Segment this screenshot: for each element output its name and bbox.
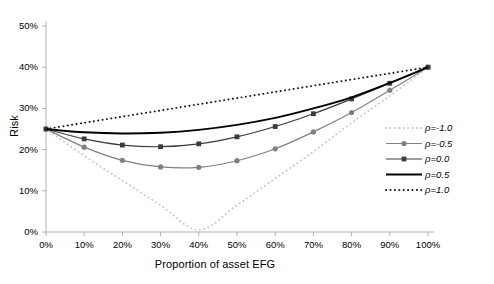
legend-marker bbox=[402, 157, 407, 162]
series-line bbox=[46, 67, 428, 133]
data-point-marker bbox=[196, 141, 201, 146]
data-point-marker bbox=[311, 129, 316, 134]
legend-entry bbox=[386, 141, 422, 146]
x-tick-label: 100% bbox=[408, 239, 448, 250]
series-line bbox=[44, 65, 431, 149]
data-point-marker bbox=[273, 124, 278, 129]
data-point-marker bbox=[273, 146, 278, 151]
series-line bbox=[46, 67, 428, 129]
y-tick-label: 10% bbox=[4, 185, 38, 196]
legend-label: ρ=0.5 bbox=[425, 169, 449, 180]
data-point-marker bbox=[234, 158, 239, 163]
x-tick-label: 80% bbox=[332, 239, 372, 250]
x-tick-label: 10% bbox=[64, 239, 104, 250]
series-line bbox=[43, 65, 430, 170]
legend-label: ρ=-1.0 bbox=[425, 122, 452, 133]
x-axis-title: Proportion of asset EFG bbox=[0, 258, 430, 270]
data-point-marker bbox=[349, 110, 354, 115]
x-tick-label: 20% bbox=[102, 239, 142, 250]
legend-entry bbox=[386, 157, 422, 162]
x-tick-label: 70% bbox=[293, 239, 333, 250]
data-point-marker bbox=[82, 136, 87, 141]
data-point-marker bbox=[235, 134, 240, 139]
data-point-marker bbox=[82, 145, 87, 150]
y-tick-label: 30% bbox=[4, 102, 38, 113]
legend-label: ρ=-0.5 bbox=[425, 138, 452, 149]
y-tick-label: 40% bbox=[4, 61, 38, 72]
data-point-marker bbox=[387, 88, 392, 93]
y-tick-label: 50% bbox=[4, 20, 38, 31]
data-point-marker bbox=[196, 165, 201, 170]
y-tick-label: 0% bbox=[4, 226, 38, 237]
x-tick-label: 0% bbox=[26, 239, 66, 250]
data-point-marker bbox=[120, 143, 125, 148]
legend-label: ρ=0.0 bbox=[425, 153, 449, 164]
x-tick-label: 60% bbox=[255, 239, 295, 250]
risk-chart: Proportion of asset EFG Risk 0%10%20%30%… bbox=[0, 0, 494, 284]
data-point-marker bbox=[158, 144, 163, 149]
data-point-marker bbox=[158, 164, 163, 169]
x-tick-label: 50% bbox=[217, 239, 257, 250]
x-tick-label: 40% bbox=[179, 239, 219, 250]
x-tick-label: 90% bbox=[370, 239, 410, 250]
x-tick-label: 30% bbox=[141, 239, 181, 250]
legend-marker bbox=[401, 141, 406, 146]
data-point-marker bbox=[120, 158, 125, 163]
data-point-marker bbox=[311, 111, 316, 116]
y-tick-label: 20% bbox=[4, 144, 38, 155]
legend-label: ρ=1.0 bbox=[425, 184, 449, 195]
